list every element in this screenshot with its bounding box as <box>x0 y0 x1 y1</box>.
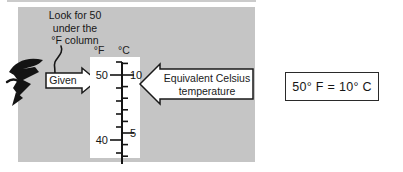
annotation-note-line2: under the <box>33 22 117 35</box>
celsius-label-5: 5 <box>130 127 136 139</box>
equivalent-arrow-line2: temperature <box>179 85 236 97</box>
equivalent-celsius-arrow: Equivalent Celsius temperature <box>138 58 256 108</box>
writing-hand-icon <box>5 52 49 108</box>
fahrenheit-label-50: 50 <box>96 69 108 81</box>
result-box: 50° F = 10° C <box>285 72 379 101</box>
fahrenheit-label-40: 40 <box>96 134 108 146</box>
result-equation: 50° F = 10° C <box>292 80 372 94</box>
equivalent-arrow-line1: Equivalent Celsius <box>164 72 250 84</box>
fahrenheit-ticks <box>110 62 122 153</box>
top-edge-strip <box>7 0 256 2</box>
given-arrow-label: Given <box>49 74 77 86</box>
annotation-note-line1: Look for 50 <box>33 9 117 22</box>
